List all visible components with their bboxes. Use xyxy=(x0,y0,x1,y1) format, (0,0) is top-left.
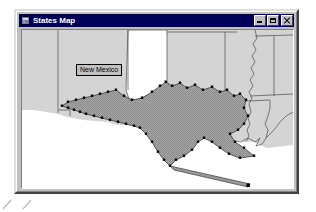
map-app-icon xyxy=(21,16,30,25)
maximize-button[interactable] xyxy=(267,15,279,26)
minimize-button[interactable] xyxy=(254,15,266,26)
map-canvas[interactable]: New Mexico xyxy=(21,29,294,189)
close-button[interactable] xyxy=(281,15,293,26)
title-bar[interactable]: States Map xyxy=(19,14,294,27)
application-window[interactable]: States Map xyxy=(14,9,299,194)
window-title: States Map xyxy=(33,16,253,25)
map-label-new-mexico[interactable]: New Mexico xyxy=(76,64,122,76)
map-graphic[interactable] xyxy=(22,30,293,188)
window-inner-frame: States Map xyxy=(16,11,297,192)
